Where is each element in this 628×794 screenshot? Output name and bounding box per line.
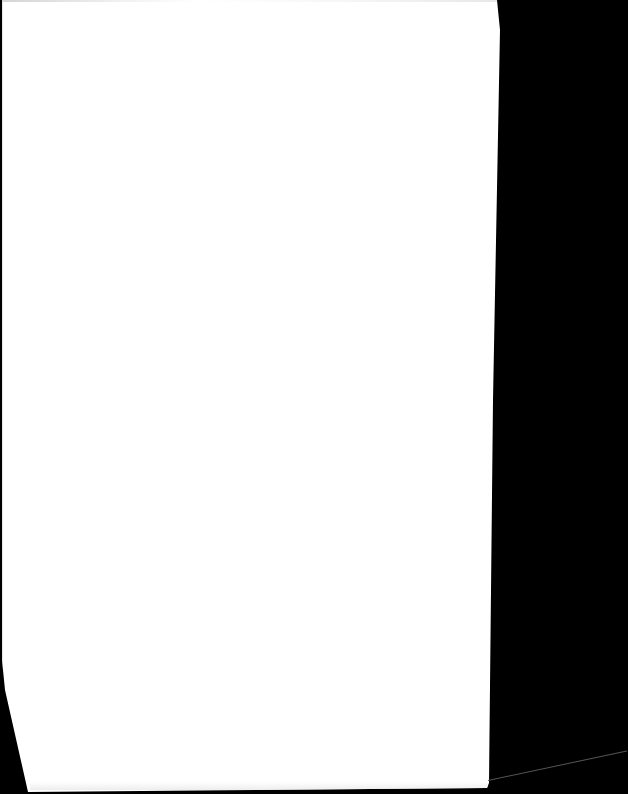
scanner-artifact-line bbox=[488, 750, 627, 781]
page-top-edge bbox=[0, 0, 497, 2]
page-content-area bbox=[40, 40, 460, 740]
scanner-background bbox=[0, 0, 628, 794]
page-left-edge bbox=[0, 0, 3, 680]
page-bottom-edge bbox=[30, 782, 488, 790]
blank-page bbox=[0, 0, 628, 794]
